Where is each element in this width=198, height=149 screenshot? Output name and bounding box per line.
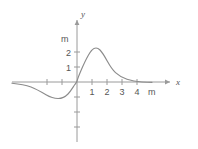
y-axis-arrowhead xyxy=(75,20,80,25)
y-axis-name-label: y xyxy=(80,9,85,19)
x-axis-unit-label: m xyxy=(148,87,156,97)
x-axis-arrowhead xyxy=(165,80,170,85)
y-tick-label-2: 2 xyxy=(66,48,71,58)
x-tick-label-2: 2 xyxy=(104,87,109,97)
figure-container: y x m m 2 1 1 2 3 4 xyxy=(0,0,198,149)
plot-svg: y x m m 2 1 1 2 3 4 xyxy=(0,0,198,149)
x-tick-label-1: 1 xyxy=(89,87,94,97)
x-tick-label-3: 3 xyxy=(119,87,124,97)
x-tick-label-4: 4 xyxy=(134,87,139,97)
x-axis-name-label: x xyxy=(175,77,180,87)
y-axis-unit-label: m xyxy=(61,34,69,44)
y-tick-label-1: 1 xyxy=(66,63,71,73)
curve-path xyxy=(12,48,152,99)
